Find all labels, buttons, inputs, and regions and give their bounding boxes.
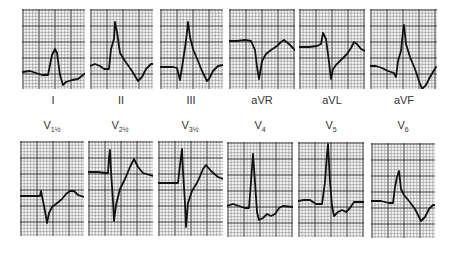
ecg-trace: [22, 49, 85, 85]
lead-label-avr: aVR: [229, 94, 295, 106]
lead-label-v6: V6: [370, 119, 436, 133]
ecg-strip-v1: [20, 141, 84, 236]
ecg-trace: [20, 191, 84, 223]
ecg-strip-avf: [370, 9, 437, 89]
ecg-strip-v2: [88, 141, 153, 236]
ecg-strip-v4: [227, 142, 293, 237]
lead-label-ii: II: [88, 94, 154, 106]
ecg-strip-avr: [229, 9, 295, 89]
lead-label-v3: V3½: [157, 119, 223, 133]
ecg-strip-v5: [298, 142, 364, 237]
lead-label-avl: aVL: [299, 94, 365, 106]
ecg-strip-avl: [299, 9, 365, 89]
ecg-strip-v6: [371, 143, 435, 238]
ecg-trace: [371, 171, 435, 221]
lead-label-avf: aVF: [371, 94, 437, 106]
ecg-strip-ii: [90, 9, 153, 89]
ecg-strip-i: [22, 9, 85, 89]
ecg-strip-iii: [160, 9, 223, 89]
lead-label-v4: V4: [227, 119, 293, 133]
lead-label-i: I: [20, 94, 86, 106]
lead-label-v5: V5: [298, 119, 364, 133]
lead-label-iii: III: [158, 94, 224, 106]
lead-label-v2: V2½: [87, 119, 153, 133]
ecg-strip-v3: [158, 141, 223, 236]
lead-label-v1: V1½: [19, 119, 85, 133]
